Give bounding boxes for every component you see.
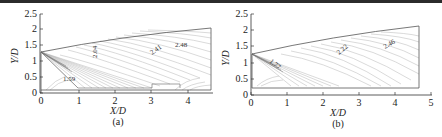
y-tick-label: 1.5 bbox=[25, 39, 38, 50]
contour-label: 2.46 bbox=[382, 37, 397, 50]
y-tick-label: 2.5 bbox=[236, 8, 249, 19]
domain-outline-b bbox=[252, 26, 419, 88]
chart-panel-a: 0 0.5 1 1.5 2 2.5 0 1 2 3 4 X/D Y/D (a) … bbox=[0, 0, 221, 137]
x-tick-label: 4 bbox=[393, 97, 398, 108]
x-tick-label: 4 bbox=[186, 95, 191, 106]
y-tick-label: 1.5 bbox=[236, 40, 249, 51]
chart-panel-b: 0 0.5 1 1.5 2 2.5 0 1 2 3 4 5 X/D Y/D (b… bbox=[221, 0, 442, 137]
y-tick-label: 2 bbox=[243, 24, 248, 35]
x-tick-label: 1 bbox=[285, 97, 290, 108]
x-tick-label: 1 bbox=[77, 95, 82, 106]
x-tick-label: 5 bbox=[429, 97, 434, 108]
x-tick-label: 0 bbox=[39, 95, 44, 106]
y-tick-label: 2 bbox=[32, 23, 37, 34]
x-axis-label: X/D bbox=[329, 107, 347, 118]
contour-label: 2.41 bbox=[149, 43, 164, 57]
contour-label: 1.59 bbox=[63, 75, 76, 83]
y-tick-label: 1 bbox=[243, 57, 248, 68]
y-tick-label: 0.5 bbox=[236, 73, 249, 84]
y-tick-label: 2.5 bbox=[25, 8, 38, 19]
x-tick-label: 3 bbox=[149, 95, 154, 106]
x-axis-label: X/D bbox=[109, 105, 127, 116]
x-tick-label: 3 bbox=[357, 97, 362, 108]
panel-label: (a) bbox=[112, 116, 123, 128]
y-tick-label: 0 bbox=[32, 87, 37, 98]
contour-plot-b: 0 0.5 1 1.5 2 2.5 0 1 2 3 4 5 X/D Y/D (b… bbox=[221, 0, 442, 137]
contour-label: 2.22 bbox=[335, 42, 350, 56]
y-tick-label: 0 bbox=[243, 89, 248, 100]
contour-label: 2.04 bbox=[91, 45, 99, 58]
contour-label: 2.48 bbox=[175, 41, 188, 49]
y-axis-label: Y/D bbox=[9, 47, 20, 63]
panel-label: (b) bbox=[332, 118, 344, 130]
y-tick-label: 1 bbox=[32, 55, 37, 66]
y-axis-label: Y/D bbox=[221, 49, 231, 65]
x-tick-label: 0 bbox=[249, 97, 254, 108]
contour-plot-a: 0 0.5 1 1.5 2 2.5 0 1 2 3 4 X/D Y/D (a) … bbox=[0, 0, 221, 137]
x-tick-label: 2 bbox=[321, 97, 326, 108]
y-tick-label: 0.5 bbox=[25, 71, 38, 82]
